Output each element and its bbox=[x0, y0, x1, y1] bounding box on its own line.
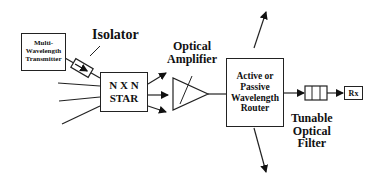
amplifier-line1: Optical bbox=[167, 40, 217, 53]
transmitter-line3: Transmitter bbox=[25, 56, 61, 64]
amplifier-line2: Amplifier bbox=[167, 53, 217, 66]
router-line1: Active or bbox=[236, 71, 273, 82]
filter-line1: Tunable bbox=[291, 112, 333, 125]
receiver-box: Rx bbox=[344, 86, 363, 100]
star-box: N X N STAR bbox=[100, 72, 148, 112]
star-line1: N X N bbox=[109, 79, 138, 92]
amplifier-icon bbox=[173, 78, 208, 110]
amplifier-label: Optical Amplifier bbox=[167, 40, 217, 65]
router-line2: Passive bbox=[240, 82, 270, 93]
isolator-icon bbox=[71, 59, 93, 78]
receiver-label: Rx bbox=[349, 89, 359, 98]
filter-label: Tunable Optical Filter bbox=[291, 112, 333, 150]
isolator-label: Isolator bbox=[92, 28, 139, 42]
transmitter-box: Multi- Wavelength Transmitter bbox=[21, 33, 66, 71]
tunable-filter-icon bbox=[305, 86, 327, 100]
router-line3: Wavelength bbox=[231, 93, 279, 104]
filter-line3: Filter bbox=[291, 137, 333, 150]
router-box: Active or Passive Wavelength Router bbox=[226, 58, 284, 127]
diagram-lines bbox=[0, 0, 384, 188]
router-line4: Router bbox=[241, 103, 270, 114]
star-line2: STAR bbox=[110, 92, 139, 105]
